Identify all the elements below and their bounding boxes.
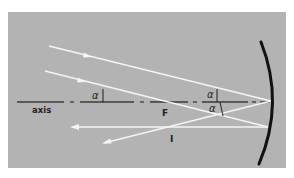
angle-label-lower: α bbox=[209, 103, 216, 114]
axis-label: axis bbox=[32, 105, 51, 115]
concave-mirror-diagram: axis F I α α α bbox=[0, 0, 294, 178]
image-label: I bbox=[170, 134, 173, 144]
angle-label-upper: α bbox=[207, 89, 214, 100]
focus-label: F bbox=[162, 108, 168, 118]
angle-label-left: α bbox=[92, 90, 99, 101]
diagram-background bbox=[8, 12, 286, 168]
